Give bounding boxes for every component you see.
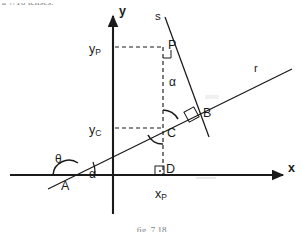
- angle-alpha-p-label: α: [169, 76, 176, 88]
- figure-container: a 7/16 tenses.: [0, 0, 303, 236]
- point-b-label: B: [203, 107, 211, 120]
- geometry-diagram: [0, 0, 303, 236]
- angle-arc-c-upper: [163, 110, 178, 119]
- x-axis-label: x: [288, 162, 295, 175]
- x-p-coordinate-label: xP: [155, 185, 167, 201]
- y-axis-label: y: [119, 5, 126, 18]
- y-c-sub: C: [95, 128, 101, 138]
- right-angle-marker-b: [184, 107, 200, 123]
- point-d-label: D: [166, 163, 175, 176]
- right-angle-dot-d: [159, 170, 161, 172]
- angle-theta-label: θ: [55, 153, 62, 165]
- y-c-coordinate-label: yC: [89, 121, 101, 137]
- point-a-label: A: [61, 180, 69, 193]
- y-p-sub: P: [95, 47, 101, 57]
- angle-alpha-a-label: α: [89, 168, 96, 180]
- y-p-coordinate-label: yP: [89, 40, 101, 56]
- line-s-label: s: [155, 11, 161, 23]
- point-c-label: C: [167, 127, 176, 140]
- point-p-label: P: [168, 39, 176, 52]
- line-r-label: r: [254, 63, 258, 75]
- x-p-sub: P: [161, 192, 167, 202]
